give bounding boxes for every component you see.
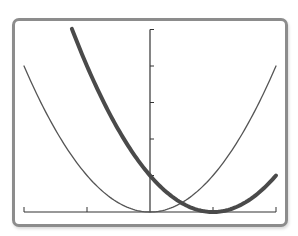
axes xyxy=(24,30,276,213)
plot-area xyxy=(0,0,298,236)
curve-thick-parabola xyxy=(72,29,276,212)
